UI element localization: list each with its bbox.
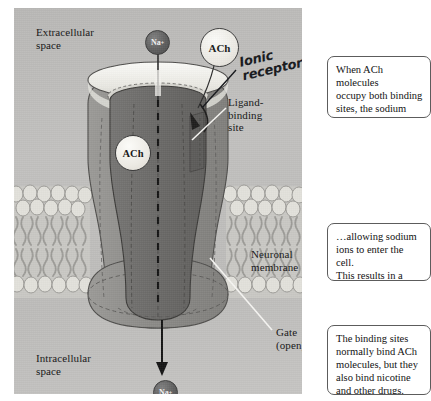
callout-ach-binding: When ACh molecules occupy both binding s… (327, 56, 431, 118)
label-neuronal-membrane: Neuronal membrane (251, 248, 302, 273)
sodium-ion-extracellular: Na+ (145, 30, 170, 55)
label-intracellular-space: Intracellular space (36, 352, 91, 377)
sodium-ion-label: Na (151, 38, 161, 47)
callout-depolarization: …allowing sodium ions to enter the cell.… (327, 223, 431, 281)
label-gate-open: Gate (open) (276, 326, 302, 351)
ach-molecule-bound: ACh (115, 135, 151, 171)
receptor-diagram-panel: Extracellular space Intracellular space … (14, 8, 302, 394)
ach-molecule-extracellular: ACh (200, 28, 239, 67)
label-ligand-binding-site: Ligand- binding site (228, 96, 298, 134)
sodium-ion-charge-2: + (169, 390, 172, 395)
label-extracellular-space: Extracellular space (36, 26, 94, 51)
sodium-ion-label-2: Na (159, 388, 169, 394)
sodium-ion-charge: + (161, 40, 164, 46)
membrane-bilayer-right (223, 185, 302, 298)
membrane-bilayer-left (14, 185, 93, 298)
callout-binding-sites: The binding sites normally bind ACh mole… (327, 325, 431, 395)
